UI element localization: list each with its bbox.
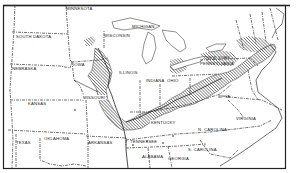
label-west-virginia: W. VA. bbox=[218, 94, 232, 99]
label-iowa: IOWA bbox=[73, 62, 85, 67]
label-illinois: ILLINOIS bbox=[118, 70, 139, 75]
label-virginia: VIRGINIA bbox=[236, 116, 256, 121]
label-south-carolina: S. CAROLINA bbox=[188, 147, 217, 152]
label-arkansas: ARKANSAS bbox=[88, 140, 112, 145]
label-north-carolina: N. CAROLINA bbox=[198, 127, 227, 132]
label-new-york: NEW YORK bbox=[206, 55, 230, 60]
label-nebraska: NEBRASKA bbox=[12, 66, 36, 71]
label-texas: TEXAS bbox=[16, 140, 31, 145]
label-georgia: GEORGIA bbox=[168, 156, 189, 161]
label-tennessee: TENNESSEE bbox=[130, 139, 157, 144]
label-ohio: OHIO bbox=[166, 78, 180, 83]
label-alabama: ALABAMA bbox=[142, 154, 163, 159]
label-kansas: KANSAS bbox=[28, 101, 46, 106]
label-kentucky: KENTUCKY bbox=[150, 120, 176, 125]
label-oklahoma: OKLAHOMA bbox=[44, 136, 69, 141]
label-south-dakota: SOUTH DAKOTA bbox=[16, 34, 51, 39]
distribution-map: MINNESOTA SOUTH DAKOTA WISCONSIN MICHIGA… bbox=[0, 0, 300, 173]
label-wisconsin: WISCONSIN bbox=[104, 33, 130, 38]
label-indiana: INDIANA bbox=[145, 78, 165, 83]
label-michigan: MICHIGAN bbox=[132, 24, 155, 29]
label-minnesota: MINNESOTA bbox=[66, 6, 92, 11]
map-frame bbox=[4, 6, 286, 169]
label-missouri: MISSOURI bbox=[82, 95, 106, 100]
label-pennsylvania: PENNSYLVANIA bbox=[200, 61, 234, 66]
